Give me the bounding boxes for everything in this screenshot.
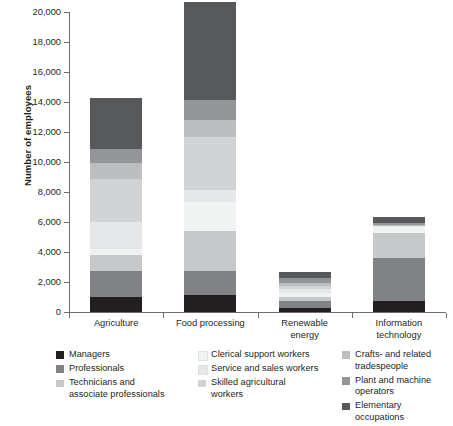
x-axis-label-information-technology: Informationtechnology <box>345 318 453 341</box>
y-axis-tick <box>64 12 69 13</box>
y-tick-label: 12,000 <box>33 127 61 137</box>
legend-swatch-icon <box>56 351 64 359</box>
y-axis-tick <box>64 102 69 103</box>
bar-segment[interactable] <box>90 255 142 271</box>
legend-label: Service and sales workers <box>211 363 318 375</box>
y-axis-tick <box>64 252 69 253</box>
legend-item-skilled-agricultural[interactable]: Skilled agriculturalworkers <box>198 377 318 400</box>
bar-food-processing[interactable] <box>184 2 236 311</box>
legend-swatch-icon <box>198 365 208 375</box>
legend-item-plant-and-machine-operators[interactable]: Plant and machine operators <box>342 375 452 398</box>
legend-item-technicians-and[interactable]: Technicians andassociate professionals <box>56 377 165 400</box>
bar-segment[interactable] <box>184 295 236 311</box>
y-axis-tick <box>64 162 69 163</box>
bar-segment[interactable] <box>90 297 142 312</box>
legend-column: Clerical support workersService and sale… <box>198 349 318 403</box>
legend-label: Managers <box>69 349 165 361</box>
y-tick-label: 16,000 <box>33 67 61 77</box>
legend-column: ManagersProfessionalsTechnicians andasso… <box>56 349 165 403</box>
bar-segment[interactable] <box>90 98 142 149</box>
bar-segment[interactable] <box>90 163 142 179</box>
bar-segment[interactable] <box>373 258 425 301</box>
legend-item-elementary-occupations[interactable]: Elementary occupations <box>342 400 452 423</box>
legend-swatch-icon <box>198 351 208 361</box>
x-label-line: Renewable <box>281 318 328 328</box>
bar-segment[interactable] <box>373 301 425 311</box>
bar-segment[interactable] <box>373 217 425 224</box>
legend-label: Crafts- and relatedtradespeople <box>355 349 452 372</box>
legend-column: Crafts- and relatedtradespeoplePlant and… <box>342 349 452 426</box>
x-label-line: technology <box>376 330 421 340</box>
bar-agriculture[interactable] <box>90 98 142 311</box>
y-tick-label: 10,000 <box>33 157 61 167</box>
x-label-line: Food processing <box>176 318 245 328</box>
bar-segment[interactable] <box>184 231 236 271</box>
legend-label: Skilled agriculturalworkers <box>211 377 318 400</box>
legend-swatch-icon <box>56 365 64 373</box>
y-tick-label: 0 <box>56 307 61 317</box>
legend-label: Elementary occupations <box>355 400 452 423</box>
y-axis-tick <box>64 132 69 133</box>
x-axis-label-renewable-energy: Renewableenergy <box>251 318 359 341</box>
bar-segment[interactable] <box>279 301 331 308</box>
legend-swatch-icon <box>342 351 350 359</box>
legend-item-crafts-and-related[interactable]: Crafts- and relatedtradespeople <box>342 349 452 372</box>
y-tick-label: 6,000 <box>38 217 61 227</box>
legend-swatch-icon <box>342 377 350 385</box>
y-tick-label: 20,000 <box>33 7 61 17</box>
bar-segment[interactable] <box>279 308 331 312</box>
plot-area <box>69 12 446 313</box>
legend-label: Clerical support workers <box>211 349 318 361</box>
bar-segment[interactable] <box>184 120 236 137</box>
legend-item-managers[interactable]: Managers <box>56 349 165 361</box>
y-axis-tick <box>64 192 69 193</box>
legend-item-service-and-sales-workers[interactable]: Service and sales workers <box>198 363 318 375</box>
bar-segment[interactable] <box>184 202 236 230</box>
bar-segment[interactable] <box>90 271 142 296</box>
bar-segment[interactable] <box>184 137 236 189</box>
x-axis-label-agriculture: Agriculture <box>62 318 170 330</box>
bar-segment[interactable] <box>184 271 236 295</box>
legend-item-professionals[interactable]: Professionals <box>56 363 165 375</box>
bar-segment[interactable] <box>184 190 236 203</box>
y-axis-tick <box>64 282 69 283</box>
legend-label: Technicians andassociate professionals <box>69 377 165 400</box>
x-label-line: energy <box>290 330 318 340</box>
bar-segment[interactable] <box>184 100 236 120</box>
y-tick-label: 4,000 <box>38 247 61 257</box>
y-tick-label: 2,000 <box>38 277 61 287</box>
chart-legend: ManagersProfessionalsTechnicians andasso… <box>56 349 452 413</box>
y-tick-label: 8,000 <box>38 187 61 197</box>
y-axis-tick <box>64 72 69 73</box>
bar-renewable-energy[interactable] <box>279 272 331 312</box>
legend-swatch-icon <box>342 403 350 411</box>
y-axis-tick <box>64 222 69 223</box>
bar-segment[interactable] <box>90 179 142 222</box>
legend-label: Plant and machine operators <box>355 375 452 398</box>
bar-segment[interactable] <box>90 249 142 256</box>
bar-segment[interactable] <box>90 222 142 249</box>
bar-information-technology[interactable] <box>373 217 425 312</box>
y-axis-line <box>69 12 70 313</box>
bar-segment[interactable] <box>90 149 142 162</box>
y-tick-label: 14,000 <box>33 97 61 107</box>
legend-label: Professionals <box>69 363 165 375</box>
legend-swatch-icon <box>198 380 206 388</box>
bar-segment[interactable] <box>373 233 425 258</box>
legend-swatch-icon <box>56 380 64 388</box>
x-label-line: Agriculture <box>94 318 138 328</box>
y-axis-tick-labels: 02,0004,0006,0008,00010,00012,00014,0001… <box>0 12 64 313</box>
y-tick-label: 18,000 <box>33 37 61 47</box>
x-label-line: Information <box>376 318 423 328</box>
bar-segment[interactable] <box>184 2 236 99</box>
x-axis-category-labels: AgricultureFood processingRenewableenerg… <box>69 318 446 350</box>
y-axis-tick <box>64 42 69 43</box>
legend-item-clerical-support-workers[interactable]: Clerical support workers <box>198 349 318 361</box>
x-axis-label-food-processing: Food processing <box>156 318 264 330</box>
